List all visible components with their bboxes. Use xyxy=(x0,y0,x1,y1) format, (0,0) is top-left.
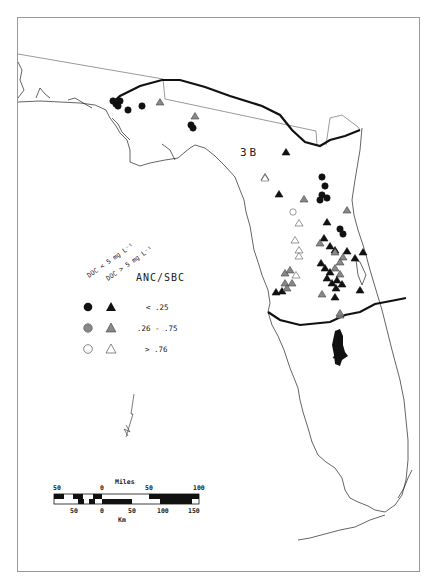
scale-miles-title: Miles xyxy=(115,478,135,486)
legend: DOC < 5 mg L⁻¹ DOC > 5 mg L⁻¹ ANC/SBC < … xyxy=(84,242,185,354)
legend-triangle-open xyxy=(106,344,116,353)
legend-row-1-label: < .25 xyxy=(146,303,169,312)
lake-okeechobee xyxy=(332,329,348,366)
legend-row-3-label: > .76 xyxy=(145,345,168,354)
site-triangle-gray xyxy=(336,310,344,317)
region-label: 3B xyxy=(240,146,259,159)
site-triangle-gray xyxy=(336,271,344,278)
legend-circle-open xyxy=(84,345,93,354)
site-triangle-black xyxy=(323,219,331,226)
scale-km-title: Km xyxy=(118,516,126,524)
site-triangle-open xyxy=(291,237,299,244)
site-circle-black xyxy=(317,197,323,203)
site-triangle-gray xyxy=(318,291,326,298)
site-circle-black xyxy=(190,125,196,131)
site-triangle-gray xyxy=(288,280,296,287)
site-triangle-gray xyxy=(300,196,308,203)
site-triangle-black xyxy=(320,235,328,242)
site-circle-black xyxy=(110,98,116,104)
site-circle-black xyxy=(322,183,328,189)
scale-miles-tick-3: 100 xyxy=(193,484,205,492)
site-triangle-gray xyxy=(191,113,199,120)
site-triangle-gray xyxy=(343,207,351,214)
scale-bar: Miles 50 0 50 100 50 0 50 100 150 Km xyxy=(53,478,205,524)
site-triangle-black xyxy=(356,287,364,294)
legend-triangle-black xyxy=(106,302,116,311)
site-triangle-gray xyxy=(156,99,164,106)
scale-km-tick-2: 50 xyxy=(128,507,136,515)
north-arrow-icon xyxy=(124,394,134,437)
site-triangle-open xyxy=(295,253,303,260)
site-triangle-black xyxy=(333,277,341,284)
scale-km-tick-4: 150 xyxy=(188,507,200,515)
site-triangle-gray xyxy=(281,280,289,287)
legend-title: ANC/SBC xyxy=(136,272,185,283)
site-triangle-black xyxy=(323,275,331,282)
site-triangle-gray xyxy=(286,267,294,274)
scale-miles-tick-0: 50 xyxy=(53,484,61,492)
scale-miles-tick-2: 50 xyxy=(145,484,153,492)
site-circle-black xyxy=(340,231,346,237)
florida-site-map: 3B DOC < 5 mg L⁻¹ DOC > 5 mg L⁻¹ ANC/SBC… xyxy=(0,0,435,586)
site-triangle-gray xyxy=(331,265,339,272)
site-circle-black xyxy=(139,103,145,109)
scale-km-tick-1: 0 xyxy=(100,507,104,515)
map-frame xyxy=(18,18,420,572)
site-triangle-black xyxy=(343,248,351,255)
site-triangle-black xyxy=(326,243,334,250)
legend-circle-black xyxy=(84,303,93,312)
scale-miles-tick-1: 0 xyxy=(100,484,104,492)
site-triangle-black xyxy=(275,191,283,198)
site-triangle-black xyxy=(351,255,359,262)
site-triangle-open xyxy=(295,220,303,227)
legend-circle-gray xyxy=(84,324,93,333)
site-triangle-black xyxy=(317,260,325,267)
scale-km-tick-0: 50 xyxy=(70,507,78,515)
site-circle-black xyxy=(115,103,121,109)
site-circle-black xyxy=(324,195,330,201)
region-boundary-3b xyxy=(112,80,406,325)
scale-km-tick-3: 100 xyxy=(157,507,169,515)
site-triangle-black xyxy=(359,249,367,256)
sampling-sites xyxy=(110,98,367,358)
site-circle-open xyxy=(290,209,296,215)
site-circle-black xyxy=(125,107,131,113)
legend-triangle-gray xyxy=(106,323,116,332)
site-triangle-black xyxy=(282,149,290,156)
site-circle-black xyxy=(319,174,325,180)
site-triangle-black xyxy=(331,294,339,301)
legend-row-2-label: .26 - .75 xyxy=(137,324,178,333)
